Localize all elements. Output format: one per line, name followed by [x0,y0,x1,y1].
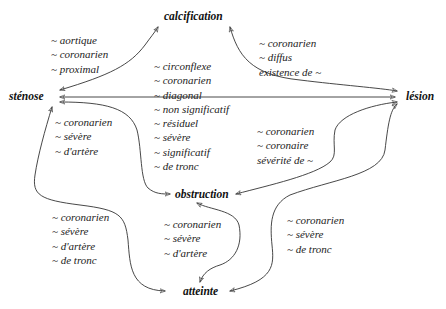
edge-label: ~ coronarien [154,73,229,87]
edge-labels-lesion-stenose: ~ circonflexe ~ coronarien ~ diagonal ~ … [154,59,229,173]
node-atteinte: atteinte [183,285,218,298]
edge-label: ~ circonflexe [154,59,229,73]
edge-label: ~ de tronc [52,253,109,267]
edge-label: existence de ~ [259,65,321,79]
edge-label: ~ aortique [51,33,108,47]
edge-labels-stenose-calcification: ~ aortique ~ coronarien ~ proximal [51,33,108,76]
edge-label: ~ significatif [154,145,229,159]
edge-label: ~ sévère [154,130,229,144]
edge-label: ~ sévère [164,231,221,245]
node-obstruction: obstruction [175,188,229,201]
edge-labels-lesion-obstruction: ~ coronarien ~ coronaire sévérité de ~ [257,124,314,167]
edge-label: ~ coronaire [257,138,314,152]
node-stenose: sténose [9,90,44,103]
edge-label: ~ de tronc [154,159,229,173]
node-lesion: lésion [406,90,434,103]
edge-label: ~ de tronc [287,242,344,256]
edge-label: ~ coronarien [287,213,344,227]
edge-label: ~ coronarien [52,210,109,224]
edge-labels-stenose-atteinte: ~ coronarien ~ sévère ~ d'artère ~ de tr… [52,210,109,267]
edge-label: ~ résiduel [154,116,229,130]
edge-labels-lesion-calcification: ~ coronarien ~ diffus existence de ~ [259,36,321,79]
edge-label: ~ diagonal [154,88,229,102]
edge-label: ~ coronarien [164,217,221,231]
edge-label: ~ d'artère [164,246,221,260]
edge-label: ~ coronarien [257,124,314,138]
edge-label: ~ coronarien [51,47,108,61]
edge-labels-stenose-obstruction: ~ coronarien ~ sévère ~ d'artère [55,115,112,158]
edge-labels-lesion-atteinte: ~ coronarien ~ sévère ~ de tronc [287,213,344,256]
edge-label: ~ non significatif [154,102,229,116]
edge-label: ~ d'artère [52,239,109,253]
edge-label: ~ coronarien [259,36,321,50]
edge-label: ~ d'artère [55,144,112,158]
edge-label: sévérité de ~ [257,153,314,167]
edge-label: ~ sévère [287,227,344,241]
node-calcification: calcification [164,10,223,23]
edge-label: ~ sévère [52,224,109,238]
edge-label: ~ proximal [51,62,108,76]
edge-label: ~ coronarien [55,115,112,129]
edge-label: ~ diffus [259,50,321,64]
edge-label: ~ sévère [55,129,112,143]
edge-labels-obstruction-atteinte: ~ coronarien ~ sévère ~ d'artère [164,217,221,260]
